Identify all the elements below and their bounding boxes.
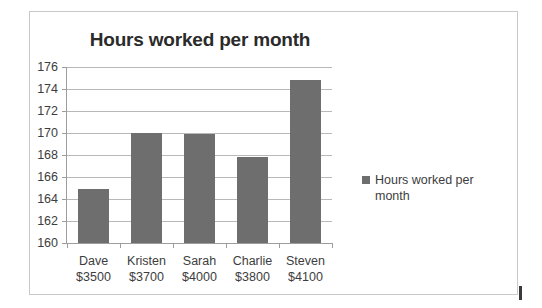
bar — [131, 133, 162, 243]
y-tick — [62, 177, 67, 178]
y-tick — [62, 89, 67, 90]
y-axis-tick-label: 176 — [37, 60, 58, 74]
x-tick — [226, 243, 227, 248]
legend-label: Hours worked per month — [375, 172, 492, 204]
y-axis-tick-label: 164 — [37, 192, 58, 206]
category-name: Dave — [79, 254, 108, 268]
category-name: Steven — [286, 254, 325, 268]
category-name: Sarah — [183, 254, 216, 268]
y-tick — [62, 111, 67, 112]
x-tick — [120, 243, 121, 248]
chart-container: Hours worked per month 17617417217016816… — [29, 11, 518, 295]
x-tick — [67, 243, 68, 248]
bar — [184, 134, 215, 243]
scan-artifact-mark — [519, 286, 522, 300]
category-name: Kristen — [127, 254, 166, 268]
bar — [290, 80, 321, 243]
y-axis-tick-label: 174 — [37, 82, 58, 96]
y-tick — [62, 133, 67, 134]
y-axis-tick-label: 162 — [37, 214, 58, 228]
y-tick — [62, 67, 67, 68]
gridline — [67, 67, 332, 68]
y-tick — [62, 199, 67, 200]
x-tick — [332, 243, 333, 248]
y-axis-tick-label: 170 — [37, 126, 58, 140]
chart-title: Hours worked per month — [30, 29, 370, 51]
bar — [78, 189, 109, 243]
y-axis-tick-label: 166 — [37, 170, 58, 184]
x-tick — [279, 243, 280, 248]
x-tick — [173, 243, 174, 248]
x-axis-category-label: Steven$4100 — [274, 253, 338, 285]
category-name: Charlie — [233, 254, 273, 268]
y-axis-tick-label: 172 — [37, 104, 58, 118]
y-tick — [62, 221, 67, 222]
plot-area: 176174172170168166164162160 — [67, 67, 332, 243]
y-axis-tick-label: 168 — [37, 148, 58, 162]
y-tick — [62, 155, 67, 156]
legend: Hours worked per month — [362, 172, 492, 204]
legend-swatch-icon — [362, 176, 370, 184]
y-axis-tick-label: 160 — [37, 236, 58, 250]
category-amount: $4100 — [274, 269, 338, 285]
bar — [237, 157, 268, 243]
x-axis-line — [67, 243, 333, 244]
